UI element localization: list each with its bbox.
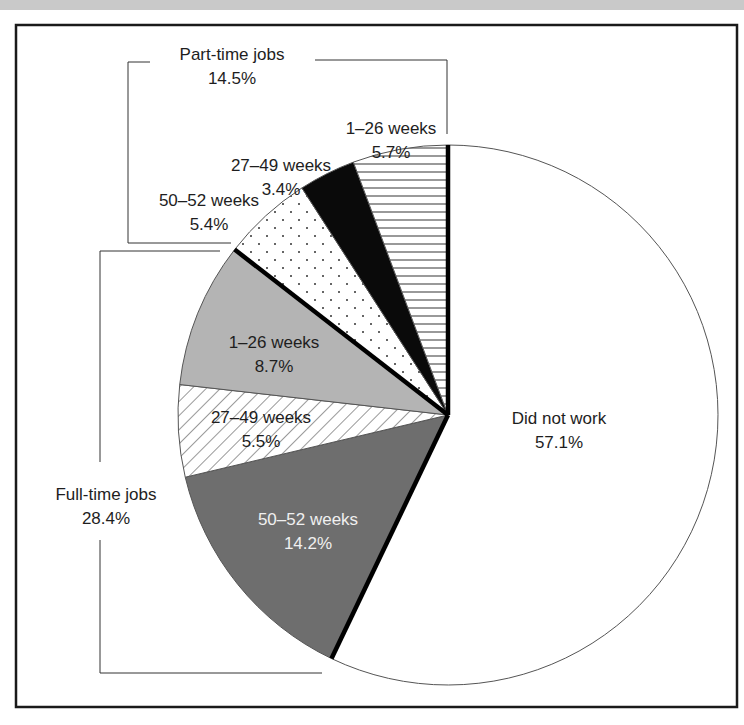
pt-27-49-pct: 3.4% [262, 180, 301, 199]
part-time-pct: 14.5% [208, 69, 256, 88]
ft-27-49-pct: 5.5% [242, 432, 281, 451]
ft-50-52-label: 50–52 weeks [258, 510, 358, 529]
full-time-title: Full-time jobs [55, 485, 156, 504]
part-time-title: Part-time jobs [180, 45, 285, 64]
ft-27-49-label: 27–49 weeks [211, 408, 311, 427]
full-time-pct: 28.4% [82, 509, 130, 528]
pt-27-49-label: 27–49 weeks [231, 156, 331, 175]
pt-50-52-label: 50–52 weeks [159, 191, 259, 210]
pt-50-52-pct: 5.4% [190, 215, 229, 234]
ft-1-26-pct: 8.7% [255, 357, 294, 376]
did-not-work-label: Did not work [512, 409, 607, 428]
pie-chart: Part-time jobs 14.5% Full-time jobs 28.4… [0, 0, 744, 725]
pt-1-26-pct: 5.7% [372, 143, 411, 162]
ft-1-26-label: 1–26 weeks [229, 333, 320, 352]
ft-50-52-pct: 14.2% [284, 534, 332, 553]
did-not-work-pct: 57.1% [535, 433, 583, 452]
pt-1-26-label: 1–26 weeks [346, 119, 437, 138]
